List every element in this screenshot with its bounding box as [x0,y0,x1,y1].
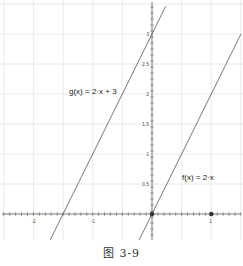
x-tick-label: -2 [31,218,36,224]
axes [2,2,241,240]
data-point [209,212,214,217]
x-tick-label: -1 [91,218,96,224]
x-tick-label: 1 [209,218,212,224]
y-tick-label: 2.5 [142,61,149,67]
y-tick-label: 1.5 [142,121,149,127]
y-tick-label: 3 [146,31,149,37]
g-function-label: g(x) = 2·x + 3 [69,87,117,96]
grid-lines [0,0,243,240]
y-tick-label: 1 [146,151,149,157]
function-graph: -2-110.511.522.53 g(x) = 2·x + 3 f(x) = … [0,0,243,240]
data-point [150,212,155,217]
y-tick-label: 0.5 [142,181,149,187]
f-function-label: f(x) = 2·x [182,173,214,182]
y-tick-label: 2 [146,91,149,97]
figure-caption: 图 3-9 [0,244,243,260]
function-line [134,34,241,240]
tick-labels: -2-110.511.522.53 [31,31,212,224]
